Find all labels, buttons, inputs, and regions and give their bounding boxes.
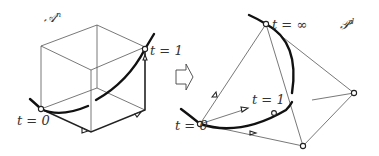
node-t0 (38, 106, 43, 111)
node-right (351, 90, 356, 95)
path-arrow-icon (143, 55, 147, 60)
label-t1: t = 1 (252, 92, 285, 107)
tetra-edge (200, 24, 266, 124)
label-t0: t = 0 (175, 118, 208, 133)
cube-figure: 𝒜n t = 1 t = 0 (17, 10, 183, 133)
space-label-A: 𝒜n (44, 10, 61, 25)
label-t0: t = 0 (17, 113, 50, 128)
tangent-arrow-icon (241, 107, 248, 112)
diagram-canvas: 𝒜n t = 1 t = 0 t = ∞ 𝒫d t = 1 (0, 0, 379, 156)
node-bottom (300, 143, 305, 148)
path-arrow-icon (135, 112, 141, 117)
space-label-P: 𝒫d (340, 17, 354, 32)
node-t1 (142, 46, 147, 51)
tetra-hidden-edge (312, 93, 354, 100)
cube-hidden-edge (97, 88, 145, 110)
label-t1: t = 1 (150, 43, 183, 58)
cube-path (41, 49, 145, 132)
tetra-edge (303, 93, 354, 146)
label-tinf: t = ∞ (272, 17, 307, 32)
tetrahedron-figure: t = ∞ 𝒫d t = 1 t = 0 (175, 15, 357, 149)
hollow-right-arrow-icon (176, 64, 193, 90)
edge-marker-icon (250, 131, 256, 135)
cube-top-face (41, 25, 145, 70)
node-t1 (272, 111, 277, 116)
edge-marker-icon (212, 92, 217, 97)
node-tinf (263, 21, 268, 26)
